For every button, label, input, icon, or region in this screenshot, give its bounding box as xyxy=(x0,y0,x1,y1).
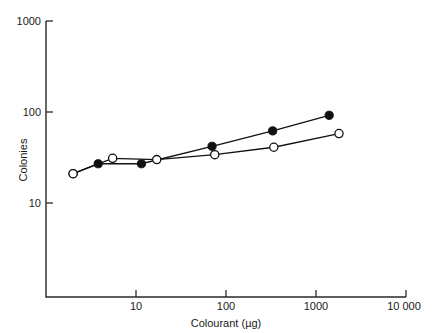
axis-lines xyxy=(46,21,406,297)
x-tick-label-10: 10 xyxy=(130,300,142,312)
x-tick-label-10000: 10 000 xyxy=(387,300,421,312)
data-point-open-circles-1 xyxy=(109,154,117,162)
y-tick-marks xyxy=(46,21,53,203)
y-tick-label-10: 10 xyxy=(29,197,41,209)
x-tick-marks xyxy=(136,290,406,297)
series-line-filled-circles xyxy=(73,115,329,173)
data-point-filled-circles-2 xyxy=(137,160,145,168)
data-point-open-circles-0 xyxy=(69,170,77,178)
series-open-circles xyxy=(69,129,343,177)
y-tick-label-100: 100 xyxy=(23,106,41,118)
series-filled-circles xyxy=(69,111,333,178)
data-point-open-circles-2 xyxy=(153,155,161,163)
y-tick-label-1000: 1000 xyxy=(17,15,41,27)
y-axis-title: Colonies xyxy=(17,138,29,181)
data-point-open-circles-3 xyxy=(211,151,219,159)
data-point-open-circles-4 xyxy=(270,143,278,151)
data-point-filled-circles-3 xyxy=(208,142,216,150)
log-log-plot: 1000 100 10 10 100 1000 10 000 Colonies … xyxy=(0,0,441,333)
data-point-filled-circles-5 xyxy=(325,111,333,119)
chart-figure: 1000 100 10 10 100 1000 10 000 Colonies … xyxy=(0,0,441,333)
series-layer xyxy=(69,111,343,178)
x-tick-label-100: 100 xyxy=(217,300,235,312)
data-point-filled-circles-4 xyxy=(269,127,277,135)
x-tick-label-1000: 1000 xyxy=(304,300,328,312)
x-axis-title: Colourant (µg) xyxy=(191,317,262,329)
data-point-open-circles-5 xyxy=(335,129,343,137)
